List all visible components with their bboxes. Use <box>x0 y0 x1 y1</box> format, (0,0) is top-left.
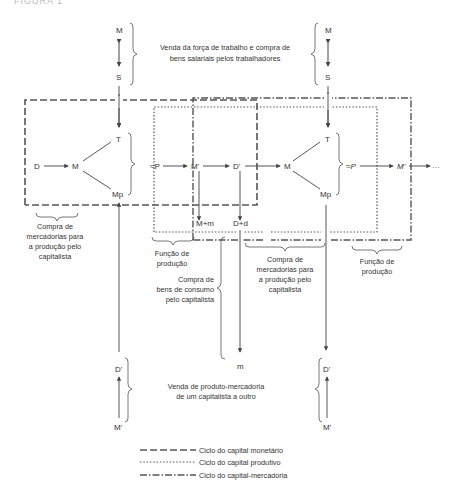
brace-icon <box>245 243 325 251</box>
top-left-ms-pair: M S <box>116 23 137 85</box>
node-m-top-left: M <box>116 26 123 35</box>
productive-capital-cycle-box <box>154 107 377 232</box>
branch-line <box>293 142 320 161</box>
node-d-prime-bottom-right: D' <box>323 365 331 374</box>
money-capital-cycle-box <box>25 100 257 205</box>
svg-text:Função de: Função de <box>360 257 394 266</box>
caption-compra-2: Compra de mercadorias para a produção pe… <box>257 255 315 294</box>
node-mp: Mp <box>112 190 124 199</box>
branch-line <box>83 142 111 161</box>
svg-text:capitalista: capitalista <box>269 285 302 294</box>
legend-item-commodity: Ciclo do capital-mercadoria <box>199 471 288 480</box>
brace-icon <box>152 237 194 245</box>
svg-text:produção: produção <box>362 267 392 276</box>
brace-icon <box>311 23 318 85</box>
bottom-left-dm-pair: D' M' <box>114 358 132 432</box>
node-m-prime-bottom-left: M' <box>114 423 123 432</box>
top-caption-line1: Venda da força de trabalho e compra de <box>160 43 290 52</box>
brace-icon <box>36 213 78 221</box>
node-m: M <box>72 162 79 171</box>
node-m-2: M <box>284 162 291 171</box>
node-s-top-left: S <box>116 73 121 82</box>
top-caption-line2: bens salariais pelos trabalhadores <box>170 54 281 63</box>
svg-text:produção: produção <box>157 259 187 268</box>
svg-text:a produção pelo: a produção pelo <box>259 275 311 284</box>
brace-icon <box>336 133 343 195</box>
node-d-prime-bottom-left: D' <box>115 365 123 374</box>
branch-line <box>83 171 111 189</box>
branch-line <box>293 171 320 189</box>
svg-text:bens de consumo: bens de consumo <box>156 285 214 294</box>
brace-icon <box>125 358 132 422</box>
caption-funcao-1: Função de produção <box>155 249 189 268</box>
svg-text:Compra de: Compra de <box>267 255 303 264</box>
legend: Ciclo do capital monetário Ciclo do capi… <box>140 446 288 480</box>
caption-compra-1: Compra de mercadorias para a produção pe… <box>27 222 85 261</box>
node-m-top-right: M <box>325 26 332 35</box>
node-t-2: T <box>325 135 330 144</box>
figure-label: FIGURA 1 <box>14 0 63 6</box>
svg-text:Compra de: Compra de <box>178 275 214 284</box>
node-m-prime-bottom-right: M' <box>323 423 332 432</box>
svg-text:mercadorias para: mercadorias para <box>257 265 315 274</box>
caption-funcao-2: Função de produção <box>360 257 394 276</box>
node-d-prime: D' <box>233 162 241 171</box>
top-right-ms-pair: M S <box>311 23 332 85</box>
node-mp-2: Mp <box>320 190 332 199</box>
node-m-prime-2: M' <box>397 162 406 171</box>
legend-item-money: Ciclo do capital monetário <box>199 446 283 455</box>
brace-icon <box>352 246 402 254</box>
brace-icon <box>315 358 322 422</box>
continuation: … <box>432 161 440 170</box>
brace-icon <box>130 23 137 85</box>
commodity-capital-cycle-box <box>193 98 411 240</box>
svg-text:pelo capitalista: pelo capitalista <box>166 295 215 304</box>
node-m-small: m <box>237 362 244 371</box>
svg-text:mercadorias para: mercadorias para <box>27 232 85 241</box>
svg-text:capitalista: capitalista <box>39 252 72 261</box>
node-m-prime: M' <box>191 162 200 171</box>
caption-consumo: Compra de bens de consumo pelo capitalis… <box>156 275 215 304</box>
node-p: ≈P <box>150 162 160 171</box>
brace-icon <box>217 237 225 359</box>
svg-text:a produção pelo: a produção pelo <box>29 242 81 251</box>
brace-icon <box>128 133 135 195</box>
bottom-caption-line1: Venda de produto-mercadoria <box>168 382 265 391</box>
capital-circuits-diagram: FIGURA 1 M S M S Venda da força de traba… <box>0 0 459 495</box>
node-t: T <box>116 135 121 144</box>
svg-text:Função de: Função de <box>155 249 189 258</box>
svg-text:Compra de: Compra de <box>37 222 73 231</box>
node-d: D <box>34 162 40 171</box>
node-s-top-right: S <box>325 73 330 82</box>
node-m-plus-m: M+m <box>196 219 214 228</box>
bottom-caption-line2: de um capitalista a outro <box>176 392 256 401</box>
circuit-row: D M T Mp ≈P M' D' M T Mp ≈P M' … <box>34 133 440 199</box>
node-d-plus-d: D+d <box>233 219 248 228</box>
bottom-right-dm-pair: D' M' <box>315 358 332 432</box>
legend-item-productive: Ciclo do capital produtivo <box>199 458 281 467</box>
node-p-2: ≈P <box>346 162 356 171</box>
